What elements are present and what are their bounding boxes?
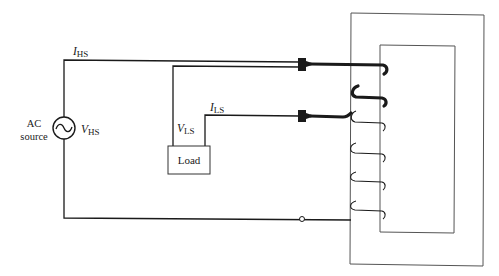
autotransformer-diagram: Load AC source VHS IHS VLS ILS <box>0 0 499 276</box>
low-side-tap-lead <box>310 112 352 117</box>
series-turn-2 <box>352 86 386 106</box>
common-terminal-node <box>300 217 305 222</box>
ac-source-label-line1: AC <box>27 118 42 129</box>
v-hs-label: VHS <box>81 123 100 137</box>
core-outer-outline <box>350 13 484 266</box>
i-ls-subscript: LS <box>214 105 225 115</box>
ac-source <box>53 117 75 139</box>
load-label: Load <box>178 154 201 166</box>
core-inner-window <box>380 45 455 233</box>
series-winding <box>310 64 387 106</box>
low-side-current-wire <box>205 115 300 146</box>
transformer-core <box>350 13 484 266</box>
v-ls-label: VLS <box>177 122 195 136</box>
series-turn-1 <box>310 64 387 74</box>
high-side-top-wire <box>64 60 300 117</box>
terminals <box>298 58 312 122</box>
labels: AC source VHS IHS VLS ILS <box>20 45 224 142</box>
high-side-wiring <box>64 60 351 220</box>
i-ls-label: ILS <box>209 101 224 115</box>
i-hs-label: IHS <box>72 45 88 59</box>
v-hs-subscript: HS <box>88 127 100 137</box>
ac-source-label-line2: source <box>20 131 48 142</box>
i-hs-subscript: HS <box>77 49 89 59</box>
v-ls-subscript: LS <box>184 126 195 136</box>
low-side-terminal <box>298 110 312 122</box>
